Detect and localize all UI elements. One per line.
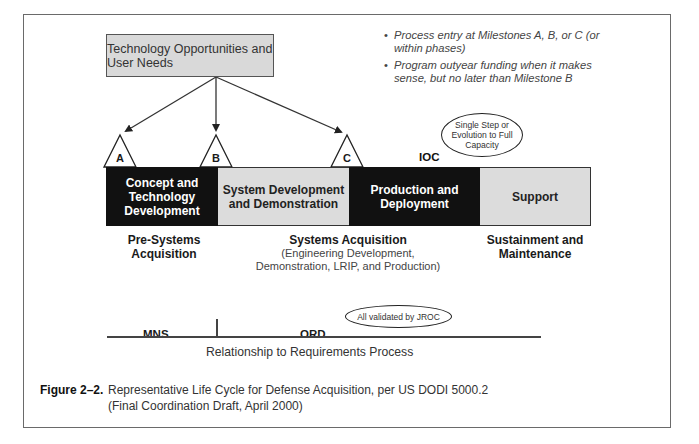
ord-label: ORD	[300, 328, 326, 340]
arrow-to-milestone-a	[126, 77, 216, 131]
phase-label: Production and Deployment	[365, 183, 465, 211]
note-item: • Program outyear funding when it makes …	[384, 59, 619, 85]
requirements-divider	[216, 319, 218, 337]
phase-label: Concept and Technology Development	[117, 176, 207, 218]
milestone-b-label: B	[212, 152, 220, 164]
phase-production-deployment: Production and Deployment	[349, 167, 480, 226]
evolution-oval: Single Step or Evolution to Full Capacit…	[441, 113, 523, 157]
grouping-title: Sustainment and Maintenance	[487, 233, 584, 261]
phase-system-development-demonstration: System Development and Demonstration	[218, 167, 349, 226]
jroc-validation-oval: All validated by JROC	[345, 305, 452, 328]
milestone-c-label: C	[343, 152, 351, 164]
evolution-oval-label: Single Step or Evolution to Full Capacit…	[442, 120, 522, 150]
top-box-label: Technology Opportunities and User Needs	[107, 42, 273, 70]
grouping-pre-systems-acquisition: Pre-Systems Acquisition	[116, 233, 212, 261]
milestone-a-label: A	[116, 152, 124, 164]
phase-support: Support	[480, 167, 591, 226]
grouping-systems-acquisition: Systems Acquisition (Engineering Develop…	[228, 233, 468, 272]
technology-opportunities-box: Technology Opportunities and User Needs	[106, 34, 274, 77]
grouping-sustainment-maintenance: Sustainment and Maintenance	[482, 233, 588, 261]
grouping-subtitle: (Engineering Development, Demonstration,…	[248, 247, 448, 272]
figure-number: Figure 2–2.	[40, 382, 108, 398]
arrow-to-milestone-c	[216, 77, 341, 132]
notes-list: • Process entry at Milestones A, B, or C…	[384, 29, 619, 89]
requirements-caption: Relationship to Requirements Process	[206, 345, 413, 359]
grouping-title: Pre-Systems Acquisition	[128, 233, 201, 261]
jroc-oval-label: All validated by JROC	[357, 312, 440, 322]
phase-label: System Development and Demonstration	[221, 183, 346, 211]
bullet-icon: •	[384, 59, 394, 85]
figure-caption-line1: Representative Life Cycle for Defense Ac…	[108, 383, 488, 397]
requirements-timeline	[107, 336, 541, 338]
mns-label: MNS	[143, 328, 169, 340]
phase-label: Support	[512, 190, 558, 204]
note-text: Program outyear funding when it makes se…	[394, 59, 619, 85]
phase-concept-technology-development: Concept and Technology Development	[106, 167, 218, 226]
note-text: Process entry at Milestones A, B, or C (…	[394, 29, 619, 55]
figure-caption-line2: (Final Coordination Draft, April 2000)	[40, 398, 488, 414]
grouping-title: Systems Acquisition	[228, 233, 468, 247]
bullet-icon: •	[384, 29, 394, 55]
note-item: • Process entry at Milestones A, B, or C…	[384, 29, 619, 55]
figure-caption: Figure 2–2.Representative Life Cycle for…	[40, 382, 488, 414]
ioc-label: IOC	[419, 151, 439, 163]
